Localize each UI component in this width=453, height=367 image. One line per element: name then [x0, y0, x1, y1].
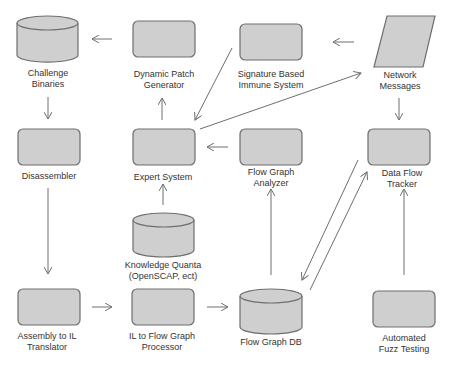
assembly-to-il-box[interactable]	[18, 289, 80, 325]
challenge-binaries-label: Challenge Binaries	[28, 68, 69, 90]
challenge-binaries-cylinder[interactable]	[17, 16, 78, 62]
expert-system-box[interactable]	[133, 129, 195, 165]
automated-fuzz-box[interactable]	[373, 291, 435, 327]
expert-system-label: Expert System	[134, 172, 193, 183]
knowledge-quanta-cylinder[interactable]	[133, 213, 194, 257]
dynamic-patch-generator-label: Dynamic Patch Generator	[134, 69, 195, 91]
il-to-flow-graph-box[interactable]	[132, 289, 194, 325]
edge-db-to-tracker	[310, 172, 367, 290]
dynamic-patch-generator-box[interactable]	[133, 21, 195, 57]
flow-graph-db-label: Flow Graph DB	[240, 337, 302, 348]
knowledge-quanta-label: Knowledge Quanta (OpenSCAP, ect)	[125, 260, 202, 282]
network-messages-label: Network Messages	[379, 70, 420, 92]
network-messages-parallelogram[interactable]	[374, 16, 435, 67]
data-flow-tracker-box[interactable]	[368, 129, 430, 165]
flow-graph-analyzer-box[interactable]	[240, 129, 302, 165]
il-to-flow-graph-label: IL to Flow Graph Processor	[129, 331, 195, 353]
automated-fuzz-label: Automated Fuzz Testing	[379, 333, 429, 355]
flow-graph-analyzer-label: Flow Graph Analyzer	[248, 167, 295, 189]
data-flow-tracker-label: Data Flow Tracker	[382, 168, 423, 190]
disassembler-label: Disassembler	[22, 171, 77, 182]
edge-signature-to-expert	[195, 48, 232, 120]
signature-immune-system-label: Signature Based Immune System	[238, 69, 305, 91]
flow-graph-db-cylinder[interactable]	[240, 289, 302, 334]
assembly-to-il-label: Assembly to IL Translator	[17, 331, 76, 353]
disassembler-box[interactable]	[18, 129, 80, 165]
signature-immune-system-box[interactable]	[240, 24, 302, 60]
edge-tracker-to-db	[302, 160, 358, 280]
